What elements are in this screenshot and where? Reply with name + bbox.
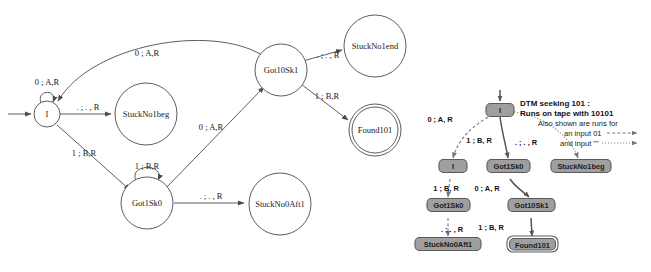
tree-node-Found101[interactable]: Found101: [507, 236, 558, 252]
tree-node-label-Got10Sk1: Got10Sk1: [514, 201, 548, 210]
note-line-title: DTM seeking 101 :: [520, 99, 590, 108]
tree-node-label-Got1Sk0-mid: Got1Sk0: [494, 162, 524, 171]
fsm-diagram: 0 ; A,R . ; . , R 1 ; B,R 0 ; A,R 1 ; B,…: [8, 15, 406, 235]
tree-edge-label-1BR-mid: 1 ; B, R: [478, 223, 504, 232]
tree-edge-label-blank-left: . ; . , R: [441, 225, 464, 234]
fsm-state-label-I: I: [46, 109, 49, 119]
note-line-also-shown: Also shown are runs for: [538, 119, 618, 128]
fsm-edge-label-Got1Sk0-StuckNo0Aft1: . ; . , R: [200, 191, 223, 201]
fsm-edge-Got10Sk1-Found101: [301, 84, 348, 120]
fsm-edge-label-Got10Sk1-Found101: 1 ; B,R: [315, 91, 340, 101]
fsm-edge-label-I-StuckNo1beg: . ; . , R: [77, 102, 100, 112]
figure-canvas: 0 ; A,R . ; . , R 1 ; B,R 0 ; A,R 1 ; B,…: [0, 0, 651, 272]
tree-node-StuckNo1beg[interactable]: StuckNo1beg: [551, 160, 611, 173]
tree-edge-Got1Sk0-to-Got10Sk1: [510, 179, 529, 197]
run-tree-diagram: 0 ; A, R 1 ; B, R . ; . , R 1 ; B, R 0 ;…: [415, 90, 637, 252]
tree-node-Got1Sk0-left[interactable]: Got1Sk0: [427, 199, 470, 212]
tree-node-label-Found101: Found101: [515, 241, 550, 250]
note-line-input-empty: and input "": [560, 139, 599, 148]
fsm-edge-label-Got1Sk0-Got10Sk1: 0 ; A,R: [199, 122, 224, 132]
fsm-state-Got1Sk0[interactable]: Got1Sk0: [121, 177, 173, 229]
note-line-tape: Runs on tape with 10101: [520, 109, 614, 118]
tree-node-Got1Sk0-mid[interactable]: Got1Sk0: [487, 160, 530, 173]
fsm-edge-label-I-I: 0 ; A,R: [35, 77, 60, 87]
tree-note-block: DTM seeking 101 : Runs on tape with 1010…: [520, 99, 637, 148]
tree-node-I-root[interactable]: I: [486, 104, 514, 117]
fsm-state-StuckNo1beg[interactable]: StuckNo1beg: [115, 83, 177, 145]
note-line-input-01: an input 01: [564, 129, 602, 138]
tree-edge-label-0AR-mid: 0 ; A, R: [474, 184, 500, 193]
tree-edge-label-0AR-root: 0 ; A, R: [427, 115, 453, 124]
tree-edge-label-1BR-root: 1 ; B, R: [466, 136, 492, 145]
tree-edge-Got10Sk1-to-Found101: [531, 218, 532, 236]
tree-node-StuckNo0Aft1[interactable]: StuckNo0Aft1: [415, 238, 481, 251]
fsm-state-I[interactable]: I: [34, 101, 60, 127]
fsm-state-StuckNo1end[interactable]: StuckNo1end: [344, 15, 406, 77]
fsm-state-label-Found101: Found101: [358, 125, 392, 135]
fsm-state-Got10Sk1[interactable]: Got10Sk1: [255, 44, 307, 96]
fsm-state-StuckNo0Aft1[interactable]: StuckNo0Aft1: [249, 173, 311, 235]
tree-edge-label-blank-root: . ; . , R: [515, 138, 538, 147]
fsm-edge-label-Got10Sk1-StuckNo1end: . ; . , R: [317, 50, 340, 60]
fsm-state-label-Got10Sk1: Got10Sk1: [264, 65, 298, 75]
fsm-edge-label-I-Got1Sk0: 1 ; B,R: [72, 148, 97, 158]
tree-node-Got10Sk1[interactable]: Got10Sk1: [508, 199, 555, 212]
fsm-edge-Got1Sk0-Got10Sk1: [166, 87, 264, 188]
tree-node-I-left[interactable]: I: [439, 160, 467, 173]
fsm-state-label-StuckNo1end: StuckNo1end: [352, 41, 399, 51]
tree-edge-root-to-Got1Sk0: [500, 117, 508, 158]
fsm-edge-label-Got1Sk0-Got1Sk0: 1 ; B,R: [135, 161, 160, 171]
fsm-edge-label-Got10Sk1-I: 0 ; A,R: [135, 48, 160, 58]
fsm-state-label-Got1Sk0: Got1Sk0: [132, 198, 162, 208]
tree-node-label-Got1Sk0-left: Got1Sk0: [434, 201, 464, 210]
tree-node-label-StuckNo0Aft1: StuckNo0Aft1: [424, 240, 472, 249]
tree-edge-label-1BR-left: 1 ; B, R: [433, 184, 459, 193]
tree-node-label-I-left: I: [452, 162, 454, 171]
fsm-state-Found101[interactable]: Found101: [349, 104, 401, 156]
fsm-state-label-StuckNo0Aft1: StuckNo0Aft1: [255, 199, 305, 209]
tree-node-label-I-root: I: [499, 106, 501, 115]
fsm-state-label-StuckNo1beg: StuckNo1beg: [123, 109, 170, 119]
automaton-and-tree-svg: 0 ; A,R . ; . , R 1 ; B,R 0 ; A,R 1 ; B,…: [0, 0, 651, 272]
tree-node-label-StuckNo1beg: StuckNo1beg: [557, 162, 605, 171]
